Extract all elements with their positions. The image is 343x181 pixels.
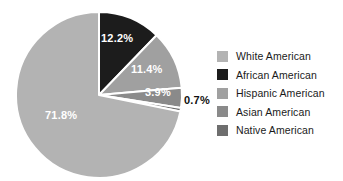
slice-label-hispanic-american: 11.4% [131, 64, 163, 75]
slice-label-native-american: 0.7% [184, 95, 210, 106]
legend-swatch-icon [217, 125, 228, 136]
legend-item-african-american[interactable]: African American [217, 66, 343, 85]
slice-label-asian-american: 3.9% [145, 87, 171, 98]
legend-swatch-icon [217, 88, 228, 99]
legend-item-label: Hispanic American [236, 88, 325, 99]
legend-item-asian-american[interactable]: Asian American [217, 103, 343, 122]
legend-swatch-icon [217, 51, 228, 62]
legend-item-hispanic-american[interactable]: Hispanic American [217, 84, 343, 103]
legend-item-white-american[interactable]: White American [217, 47, 343, 66]
chart-legend: White AmericanAfrican AmericanHispanic A… [217, 47, 343, 140]
legend-swatch-icon [217, 106, 228, 117]
pie-chart-svg [0, 0, 215, 181]
legend-item-label: White American [236, 51, 311, 62]
legend-item-label: Native American [236, 125, 314, 136]
slice-label-white-american: 71.8% [45, 110, 77, 121]
slice-label-african-american: 12.2% [101, 33, 133, 44]
legend-item-label: Asian American [236, 107, 310, 118]
legend-item-label: African American [236, 70, 317, 81]
pie-chart-plot-area: 12.2% 11.4% 3.9% 0.7% 71.8% [0, 0, 215, 181]
legend-item-native-american[interactable]: Native American [217, 121, 343, 140]
legend-swatch-icon [217, 69, 228, 80]
pie-chart-figure: 12.2% 11.4% 3.9% 0.7% 71.8% White Americ… [0, 0, 343, 181]
